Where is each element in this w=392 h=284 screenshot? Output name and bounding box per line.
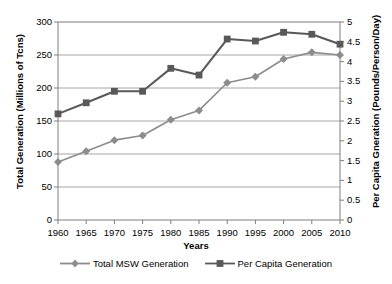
data-point-marker (336, 51, 344, 59)
data-point-marker (111, 88, 118, 95)
data-point-marker (252, 38, 259, 45)
data-point-marker (224, 36, 231, 43)
data-point-marker (139, 88, 146, 95)
chart-legend: Total MSW Generation Per Capita Generati… (0, 258, 392, 269)
legend-marker-diamond-icon (60, 258, 90, 269)
data-point-marker (55, 110, 62, 117)
data-point-marker (196, 72, 203, 79)
data-point-marker (280, 29, 287, 36)
data-point-marker (337, 41, 344, 48)
series-total-msw-generation (54, 48, 344, 166)
data-point-marker (167, 116, 175, 124)
data-point-marker (280, 55, 288, 63)
data-point-marker (251, 73, 259, 81)
data-point-marker (308, 31, 315, 38)
data-point-marker (54, 158, 62, 166)
data-point-marker (139, 132, 147, 140)
data-point-marker (110, 136, 118, 144)
legend-marker-square-icon (205, 258, 235, 269)
plot-area (0, 0, 392, 284)
legend-item-per-capita-generation: Per Capita Generation (205, 258, 333, 269)
data-point-marker (83, 99, 90, 106)
data-point-marker (167, 65, 174, 72)
legend-item-total-msw-generation: Total MSW Generation (60, 258, 189, 269)
legend-label-total-msw-generation: Total MSW Generation (93, 259, 189, 269)
chart-container: Total Generation (Millions of Tcns) Per … (0, 0, 392, 284)
legend-label-per-capita-generation: Per Capita Generation (238, 259, 333, 269)
series-per-capita-generation (55, 29, 344, 117)
